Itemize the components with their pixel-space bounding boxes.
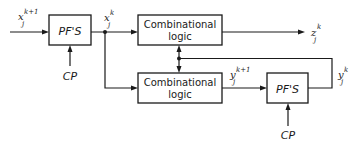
x-branch-wire (105, 32, 135, 88)
input-arrow (42, 30, 49, 35)
clock-left-label: CP (63, 70, 78, 83)
comb-top-block: Combinational logic (138, 15, 222, 45)
pfs-left-block: PF'S (49, 15, 91, 45)
pfs-left-label: PF'S (59, 25, 82, 38)
signal-y-label: y k j (337, 66, 348, 86)
comb-top-input-arrow (131, 30, 138, 35)
comb-bottom-block: Combinational logic (138, 73, 222, 103)
pfs-right-block: PF'S (267, 73, 308, 103)
pfs-right-label: PF'S (276, 83, 299, 96)
pfs-right-input-arrow (260, 86, 267, 91)
signal-y-next-sup: k+1 (236, 66, 251, 74)
comb-top-y-arrow (177, 45, 182, 52)
signal-input-sup: k+1 (24, 8, 39, 16)
clock-right-arrow (286, 103, 291, 110)
signal-x-label: x k j (104, 9, 114, 29)
clock-left-arrow (68, 45, 73, 52)
comb-bottom-input-arrow (131, 86, 138, 91)
comb-bottom-y-arrow (177, 66, 182, 73)
signal-z-sup: k (317, 23, 321, 31)
comb-bottom-label-line2: logic (168, 89, 192, 100)
signal-y-next-label: y k+1 j (229, 66, 251, 86)
block-diagram: PF'S CP Combinational logic Combinationa… (0, 0, 358, 144)
signal-z-label: z k j (310, 23, 321, 44)
comb-bottom-label-line1: Combinational (144, 77, 217, 88)
clock-right-label: CP (281, 129, 296, 142)
comb-top-label-line1: Combinational (144, 19, 217, 30)
comb-top-label-line2: logic (168, 31, 192, 42)
output-z-arrow (298, 30, 305, 35)
signal-x-sup: k (110, 9, 114, 17)
signal-input-label: x k+1 j (18, 8, 39, 28)
signal-y-sup: k (344, 66, 348, 74)
